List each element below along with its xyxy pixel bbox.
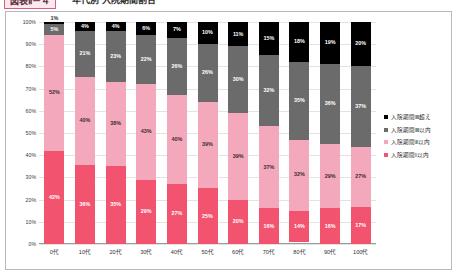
stacked-bar[interactable]: 10%26%39%25%: [198, 22, 218, 244]
stacked-bar[interactable]: 11%30%39%20%: [228, 22, 248, 244]
bar-segment[interactable]: 17%: [351, 207, 371, 244]
bar-column[interactable]: 6%22%43%29%: [131, 22, 162, 244]
bar-segment[interactable]: 20%: [228, 200, 248, 244]
bar-segment[interactable]: 4%: [75, 22, 95, 31]
chart-legend: 入院期間Ⅲ超え入院期間Ⅲ以内入院期間Ⅱ以内入院期間Ⅰ以内: [384, 111, 450, 161]
plot-area: 0%10%20%30%40%50%60%70%80%90%100% 1%5%52…: [39, 22, 376, 244]
bar-column[interactable]: 20%37%27%17%: [345, 22, 376, 244]
bar-segment[interactable]: 40%: [167, 95, 187, 184]
x-axis-label: 30代: [131, 248, 162, 256]
chart-frame: 0%10%20%30%40%50%60%70%80%90%100% 1%5%52…: [5, 11, 452, 270]
legend-swatch: [384, 140, 388, 144]
y-axis-tick-label: 60%: [6, 108, 36, 114]
bar-segment[interactable]: 15%: [259, 22, 279, 55]
gridline: [39, 244, 376, 245]
legend-item[interactable]: 入院期間Ⅰ以内: [384, 149, 450, 162]
y-axis-tick-label: 100%: [6, 19, 36, 25]
stacked-bar[interactable]: 4%21%40%36%: [75, 22, 95, 244]
legend-swatch: [384, 128, 388, 132]
x-axis-label: 90代: [315, 248, 346, 256]
bar-segment[interactable]: 26%: [167, 38, 187, 96]
bar-column[interactable]: 10%26%39%25%: [192, 22, 223, 244]
legend-item[interactable]: 入院期間Ⅲ超え: [384, 111, 450, 124]
x-axis-label: 0代: [39, 248, 70, 256]
bar-segment[interactable]: 5%: [44, 24, 64, 35]
x-axis-label: 50代: [192, 248, 223, 256]
bar-segment-label-outside: 1%: [50, 15, 58, 21]
bar-segment[interactable]: 37%: [351, 66, 371, 147]
bar-segment[interactable]: 37%: [259, 126, 279, 208]
bar-segment[interactable]: 38%: [106, 82, 126, 166]
bar-segment[interactable]: 14%: [289, 211, 309, 242]
x-axis-label: 80代: [284, 248, 315, 256]
legend-item[interactable]: 入院期間Ⅲ以内: [384, 124, 450, 137]
bar-segment[interactable]: 4%: [106, 22, 126, 31]
bar-column[interactable]: 15%32%37%16%: [253, 22, 284, 244]
bar-segment[interactable]: 25%: [198, 188, 218, 244]
legend-label: 入院期間Ⅲ超え: [391, 113, 431, 121]
bar-segment[interactable]: 7%: [167, 22, 187, 38]
y-axis-tick-label: 80%: [6, 63, 36, 69]
stacked-bar[interactable]: 15%32%37%16%: [259, 22, 279, 244]
bar-column[interactable]: 11%30%39%20%: [223, 22, 254, 244]
bar-column[interactable]: 7%26%40%27%: [162, 22, 193, 244]
bar-segment[interactable]: 35%: [106, 166, 126, 244]
bar-column[interactable]: 4%23%38%35%: [100, 22, 131, 244]
bar-segment[interactable]: 36%: [320, 64, 340, 144]
bar-segment[interactable]: 11%: [228, 22, 248, 46]
title-strip: 図表Ⅱ－４ 年代別 入院期間割合: [0, 0, 457, 9]
bar-segment[interactable]: 19%: [320, 22, 340, 64]
bar-segment[interactable]: 35%: [289, 62, 309, 140]
bar-segment[interactable]: 27%: [351, 147, 371, 206]
bar-segment[interactable]: 42%: [44, 151, 64, 244]
stacked-bar[interactable]: 6%22%43%29%: [136, 22, 156, 244]
legend-item[interactable]: 入院期間Ⅱ以内: [384, 136, 450, 149]
y-axis-tick-label: 50%: [6, 130, 36, 136]
bar-segment[interactable]: 18%: [289, 22, 309, 62]
legend-label: 入院期間Ⅲ以内: [391, 126, 431, 134]
stacked-bar[interactable]: 18%35%32%14%: [289, 22, 309, 244]
bar-column[interactable]: 18%35%32%14%: [284, 22, 315, 244]
bar-segment[interactable]: 23%: [106, 31, 126, 82]
bar-segment[interactable]: 16%: [259, 208, 279, 244]
y-axis-tick-label: 40%: [6, 152, 36, 158]
bar-segment[interactable]: 39%: [228, 113, 248, 200]
x-axis-label: 60代: [223, 248, 254, 256]
bar-segment[interactable]: 22%: [136, 35, 156, 84]
bar-column[interactable]: 1%5%52%42%: [39, 22, 70, 244]
figure-title: 年代別 入院期間割合: [72, 0, 156, 7]
bar-segment[interactable]: 39%: [198, 102, 218, 189]
bar-column[interactable]: 4%21%40%36%: [70, 22, 101, 244]
bar-segment[interactable]: 32%: [259, 55, 279, 126]
stacked-bar[interactable]: 5%52%42%: [44, 22, 64, 244]
bar-column[interactable]: 19%36%29%16%: [315, 22, 346, 244]
bar-segment[interactable]: 40%: [75, 77, 95, 165]
bar-series-group: 1%5%52%42%4%21%40%36%4%23%38%35%6%22%43%…: [39, 22, 376, 244]
bar-segment[interactable]: 52%: [44, 35, 64, 150]
bar-segment[interactable]: 30%: [228, 46, 248, 113]
bar-segment[interactable]: 26%: [198, 44, 218, 102]
bar-segment[interactable]: 29%: [136, 180, 156, 244]
legend-label: 入院期間Ⅰ以内: [391, 151, 429, 159]
bar-segment[interactable]: 20%: [351, 22, 371, 66]
bar-segment[interactable]: 43%: [136, 84, 156, 179]
stacked-bar[interactable]: 20%37%27%17%: [351, 22, 371, 244]
bar-segment[interactable]: 29%: [320, 144, 340, 208]
figure-number-badge: 図表Ⅱ－４: [4, 0, 56, 9]
stacked-bar[interactable]: 19%36%29%16%: [320, 22, 340, 244]
y-axis-tick-label: 90%: [6, 41, 36, 47]
bar-segment[interactable]: 6%: [136, 22, 156, 35]
bar-segment[interactable]: 10%: [198, 22, 218, 44]
bar-segment[interactable]: 36%: [75, 165, 95, 244]
legend-label: 入院期間Ⅱ以内: [391, 138, 430, 146]
bar-segment[interactable]: 27%: [167, 184, 187, 244]
bar-segment[interactable]: 32%: [289, 140, 309, 211]
bar-segment[interactable]: 16%: [320, 208, 340, 244]
y-axis-tick-label: 70%: [6, 86, 36, 92]
stacked-bar[interactable]: 7%26%40%27%: [167, 22, 187, 244]
x-axis-label: 70代: [253, 248, 284, 256]
bar-segment[interactable]: 21%: [75, 31, 95, 77]
x-axis-label: 100代: [345, 248, 376, 256]
stacked-bar[interactable]: 4%23%38%35%: [106, 22, 126, 244]
legend-swatch: [384, 115, 388, 119]
